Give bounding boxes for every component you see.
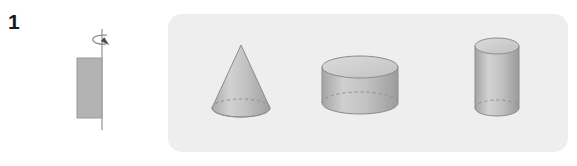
option-disk[interactable] [314, 14, 424, 152]
rotation-arrow [93, 35, 109, 45]
prompt-figure-svg [60, 20, 130, 140]
cylinder-svg [458, 14, 554, 152]
prompt-rectangle [77, 58, 102, 118]
option-cylinder[interactable] [458, 14, 554, 152]
disk-svg [314, 14, 424, 152]
cylinder-top-ellipse [475, 38, 519, 54]
problem-number: 1 [8, 11, 19, 32]
prompt-figure [60, 20, 130, 140]
cone-svg [202, 14, 312, 152]
disk-top-ellipse [322, 56, 398, 78]
cylinder-side [475, 46, 519, 116]
options-panel [168, 14, 568, 152]
cone-body [212, 45, 270, 117]
figure-stage: 1 [0, 0, 577, 166]
option-cone[interactable] [202, 14, 312, 152]
